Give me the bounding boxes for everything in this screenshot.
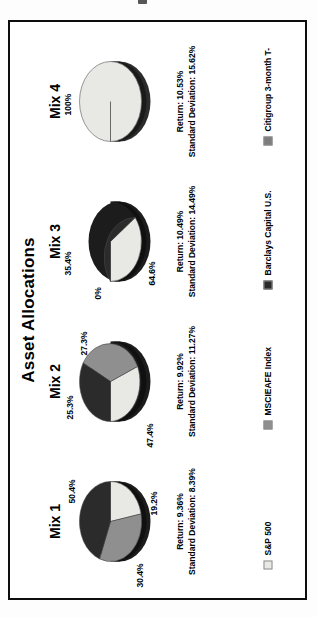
pie-svg [73,190,157,294]
pie-slice-label: 19.2% [149,491,159,515]
pie-slice-label: 30.4% [135,563,145,587]
pie-panel-title: Mix 2 [47,312,63,452]
chart-legend: S&P 500 MSCIEAFE Index Barclays Capital … [263,23,293,598]
pie-chart-mix-3: 64.6% 0% 35.4% [73,190,157,294]
return-value: Return: 9.92% [175,312,187,452]
pie-panel-mix-4: Mix 4 100% Return: 10.53% Standard Devia… [47,32,252,172]
return-value: Return: 9.36% [175,452,187,592]
scan-artifact-glyph [138,0,147,4]
legend-swatch-icon [263,281,272,290]
pie-svg [73,470,157,574]
scanned-slide-page: Asset Allocations Mix 1 [0,0,317,617]
legend-item-citigroup: Citigroup 3-month T- [263,48,273,146]
pie-stats-mix-1: Return: 9.36% Standard Deviation: 8.39% [175,452,198,592]
pie-panel-mix-3: Mix 3 64.6% 0% 35.4% [47,172,252,312]
legend-item-sp500: S&P 500 [263,522,273,570]
legend-label: Barclays Capital U.S. [263,190,273,275]
pie-stats-mix-4: Return: 10.53% Standard Deviation: 15.62… [175,32,198,172]
pie-chart-mix-2: 47.4% 27.3% 25.3% [73,330,157,434]
legend-swatch-icon [263,561,272,570]
legend-swatch-icon [263,421,272,430]
pie-slice-label: 100% [63,94,73,116]
pie-slice-label: 27.3% [79,331,89,355]
pie-stats-mix-3: Return: 10.49% Standard Deviation: 14.49… [175,172,198,312]
std-dev-value: Standard Deviation: 14.49% [186,172,198,312]
return-value: Return: 10.49% [175,172,187,312]
legend-label: MSCIEAFE Index [263,347,273,415]
pie-stats-mix-2: Return: 9.92% Standard Deviation: 11.27% [175,312,198,452]
pie-slice-label: 25.3% [65,395,75,419]
std-dev-value: Standard Deviation: 8.39% [186,452,198,592]
legend-item-msci-eafe: MSCIEAFE Index [263,347,273,429]
std-dev-value: Standard Deviation: 15.62% [186,32,198,172]
pie-panel-mix-2: Mix 2 47.4% 27.3% [47,312,252,452]
pie-slice-label: 47.4% [145,423,155,447]
pie-panel-title: Mix 4 [47,32,63,172]
legend-label: Citigroup 3-month T- [263,48,273,132]
return-value: Return: 10.53% [175,32,187,172]
chart-title: Asset Allocations [19,23,39,598]
legend-item-barclays: Barclays Capital U.S. [263,190,273,289]
pie-slice-label: 35.4% [63,251,73,275]
pie-slice-label: 50.4% [67,479,77,503]
pie-svg [73,50,157,154]
pie-panel-title: Mix 1 [47,452,63,592]
legend-label: S&P 500 [263,522,273,556]
std-dev-value: Standard Deviation: 11.27% [186,312,198,452]
pie-panel-title: Mix 3 [47,172,63,312]
legend-swatch-icon [263,137,272,146]
pie-slice-label: 64.6% [147,261,157,285]
pie-slice-label: 0% [93,287,103,299]
pie-chart-mix-4: 100% [73,50,157,154]
pie-panel-mix-1: Mix 1 30.4% [47,452,252,592]
pie-chart-mix-1: 30.4% 19.2% 50.4% [73,470,157,574]
rotated-chart-stage: Asset Allocations Mix 1 [11,23,305,598]
slide-frame-border: Asset Allocations Mix 1 [8,20,307,600]
